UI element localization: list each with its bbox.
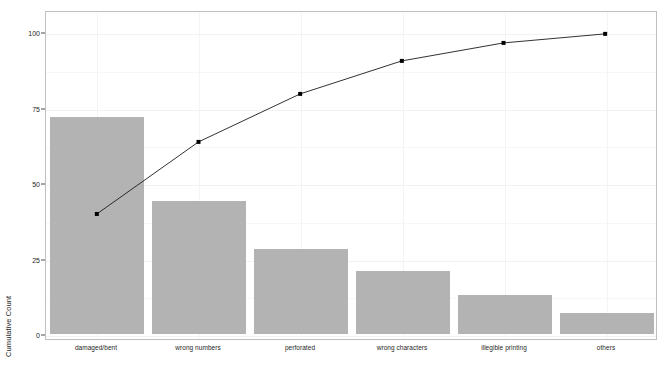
vertical-gridline bbox=[607, 12, 608, 339]
gridline-major bbox=[46, 336, 656, 337]
cumulative-line bbox=[97, 34, 605, 214]
gridline-major bbox=[46, 110, 656, 111]
bar bbox=[152, 201, 245, 334]
bar bbox=[50, 117, 143, 334]
x-axis-tick-label: wrong numbers bbox=[175, 344, 220, 351]
y-axis-tick-mark bbox=[41, 33, 45, 34]
y-axis-tick-label: 75 bbox=[32, 105, 40, 112]
y-axis-tick-label: 0 bbox=[36, 332, 40, 339]
x-axis-tick-label: wrong characters bbox=[377, 344, 428, 351]
gridline-major bbox=[46, 34, 656, 35]
bar bbox=[254, 249, 347, 334]
bar bbox=[458, 295, 551, 334]
y-axis-tick-labels: 0255075100 bbox=[14, 0, 40, 365]
bar bbox=[356, 271, 449, 334]
x-axis-tick-label: illegible printing bbox=[481, 344, 527, 351]
y-axis-tick-label: 50 bbox=[32, 181, 40, 188]
y-axis-tick-mark bbox=[41, 259, 45, 260]
y-axis-tick-label: 100 bbox=[28, 30, 40, 37]
y-axis-tick-mark bbox=[41, 108, 45, 109]
x-axis-tick-label: others bbox=[597, 344, 615, 351]
bar bbox=[560, 313, 653, 334]
plot-panel bbox=[45, 11, 657, 340]
x-axis-tick-label: perforated bbox=[285, 344, 315, 351]
y-axis-tick-mark bbox=[41, 184, 45, 185]
x-axis-tick-label: damaged/bent bbox=[75, 344, 117, 351]
pareto-chart: Cumulative Count 0255075100 damaged/bent… bbox=[0, 0, 666, 365]
x-axis-tick-labels: damaged/bentwrong numbersperforatedwrong… bbox=[45, 344, 657, 360]
vertical-gridline bbox=[505, 12, 506, 339]
y-axis-tick-label: 25 bbox=[32, 256, 40, 263]
gridline-minor bbox=[46, 72, 656, 73]
y-axis-tick-mark bbox=[41, 335, 45, 336]
